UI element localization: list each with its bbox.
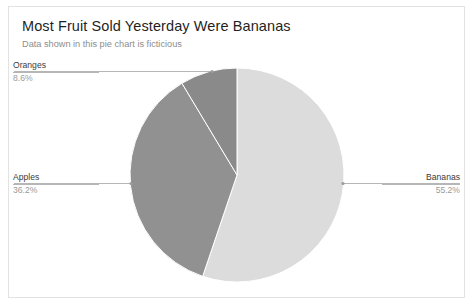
pie-label-bananas-name: Bananas (382, 172, 460, 183)
pie-label-oranges-value: 8.6% (13, 73, 99, 84)
leader-dot-oranges (210, 70, 213, 73)
pie-label-apples: Apples 36.2% (13, 172, 99, 196)
leader-dot-apples (129, 182, 132, 185)
pie-label-oranges-name: Oranges (13, 60, 99, 71)
pie-label-bananas-value: 55.2% (382, 185, 460, 196)
pie-label-bananas: Bananas 55.2% (382, 172, 460, 196)
pie-chart-plot-area: Oranges 8.6% Apples 36.2% Bananas 55.2% (0, 0, 475, 307)
leader-dot-bananas (341, 182, 344, 185)
pie-chart-svg (0, 0, 475, 307)
pie-label-apples-name: Apples (13, 172, 99, 183)
pie-label-apples-value: 36.2% (13, 185, 99, 196)
pie-label-oranges: Oranges 8.6% (13, 60, 99, 84)
